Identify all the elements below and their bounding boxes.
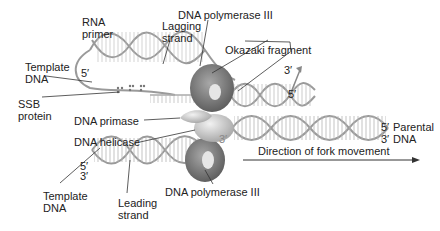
- dna-polymerase-top-ring: [190, 64, 234, 112]
- parental-dna-label: ParentalDNA: [393, 121, 434, 145]
- okazaki-fragment-label: Okazaki fragment: [225, 44, 311, 56]
- direction-arrow: [243, 157, 420, 163]
- dna-primase-label: DNA primase: [74, 115, 139, 127]
- leading-strand-label: Leadingstrand: [118, 197, 157, 221]
- template-dna-bottom-label: TemplateDNA: [43, 190, 88, 214]
- bottom-3-prime: 3′: [80, 170, 88, 182]
- parental-dna-helix: [232, 116, 388, 140]
- center-3-prime: 3′: [219, 133, 227, 145]
- lagging-strand-label: Laggingstrand: [162, 20, 201, 44]
- okazaki-3-prime: 3′: [284, 64, 292, 76]
- okazaki-helix: [230, 66, 315, 106]
- okazaki-5-prime: 5′: [288, 88, 296, 100]
- parental-3-prime: 3′: [381, 133, 389, 145]
- direction-of-fork-movement-label: Direction of fork movement: [258, 145, 389, 157]
- parental-5-prime: 5′: [381, 121, 389, 133]
- ssb-protein-label: SSBprotein: [18, 98, 52, 122]
- replication-fork-diagram: RNAprimer TemplateDNA 5′ SSBprotein DNA …: [0, 0, 440, 231]
- dna-polymerase-bottom-label: DNA polymerase III: [165, 186, 260, 198]
- dna-helicase-label: DNA helicase: [74, 136, 140, 148]
- template-dna-top-label: TemplateDNA: [25, 61, 70, 85]
- end-5-prime-top-left: 5′: [81, 67, 89, 79]
- rna-primer-label: RNAprimer: [82, 16, 113, 40]
